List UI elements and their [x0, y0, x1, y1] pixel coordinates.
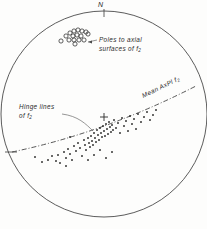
data-point-hinge [101, 136, 103, 138]
data-point-hinge [131, 123, 133, 125]
data-point-hinge [89, 146, 91, 148]
data-point-hinge [65, 157, 67, 159]
data-point-pole [82, 38, 86, 42]
data-point-hinge [125, 120, 127, 122]
data-point-hinge [119, 132, 121, 134]
data-point-hinge [100, 132, 102, 134]
data-point-hinge [103, 130, 105, 132]
data-point-hinge [99, 149, 101, 151]
data-point-hinge [55, 160, 57, 162]
data-point-hinge [91, 140, 93, 142]
data-point-pole [72, 38, 76, 42]
poles-point-group [59, 28, 90, 46]
data-point-hinge [84, 144, 86, 146]
data-point-hinge [92, 144, 94, 146]
poles-annotation-sub: 2 [138, 48, 141, 53]
data-point-hinge [146, 111, 148, 113]
data-point-hinge [96, 129, 98, 131]
data-point-hinge [69, 153, 71, 155]
center-cross-mark [100, 113, 108, 121]
hinge-annotation-line2: of f [19, 112, 29, 119]
data-point-hinge [63, 151, 65, 153]
data-point-hinge [115, 127, 117, 129]
data-point-pole [64, 34, 68, 38]
north-label: N [98, 1, 103, 10]
data-point-hinge [88, 142, 90, 144]
data-point-hinge [110, 131, 112, 133]
data-point-pole [73, 42, 77, 46]
data-point-hinge [112, 129, 114, 131]
hinge-leader-line [62, 114, 93, 131]
data-point-hinge [137, 113, 139, 115]
data-point-hinge [87, 137, 89, 139]
data-point-hinge [93, 132, 95, 134]
poles-annotation-line2: surfaces of f [99, 45, 138, 52]
data-point-hinge [99, 127, 101, 129]
hinge-annotation-sub: 2 [29, 115, 32, 120]
data-point-hinge [47, 159, 49, 161]
data-point-hinge [83, 139, 85, 141]
data-point-hinge [93, 154, 95, 156]
stereonet-figure: N Poles to axial surfaces of f2 Hinge li… [0, 0, 207, 229]
data-point-hinge [135, 128, 137, 130]
data-point-hinge [81, 155, 83, 157]
data-point-hinge [106, 128, 108, 130]
data-point-hinge [57, 154, 59, 156]
data-point-pole [77, 38, 81, 42]
data-point-hinge [107, 133, 109, 135]
data-point-hinge [140, 121, 142, 123]
data-point-hinge [94, 137, 96, 139]
data-point-hinge [149, 119, 151, 121]
data-point-pole [59, 39, 63, 43]
hinge-annotation: Hinge lines of f2 [19, 103, 54, 122]
data-point-hinge [98, 139, 100, 141]
data-point-hinge [95, 141, 97, 143]
data-point-hinge [155, 109, 157, 111]
data-point-hinge [111, 124, 113, 126]
data-point-pole [71, 34, 75, 38]
data-point-hinge [104, 135, 106, 137]
data-point-pole [75, 33, 79, 37]
data-point-hinge [143, 116, 145, 118]
data-point-pole [80, 29, 84, 33]
data-point-hinge [90, 135, 92, 137]
data-point-hinge [75, 150, 77, 152]
data-point-hinge [79, 147, 81, 149]
data-point-hinge [102, 125, 104, 127]
data-point-hinge [71, 159, 73, 161]
data-point-pole [76, 28, 80, 32]
data-point-hinge [69, 136, 71, 138]
data-point-hinge [67, 148, 69, 150]
data-point-hinge [105, 123, 107, 125]
data-point-pole [72, 29, 76, 33]
data-point-hinge [111, 151, 113, 153]
data-point-hinge [85, 149, 87, 151]
data-point-hinge [152, 114, 154, 116]
data-point-pole [67, 38, 71, 42]
data-point-pole [79, 34, 83, 38]
poles-annotation: Poles to axial surfaces of f2 [99, 36, 142, 55]
data-point-hinge [34, 156, 36, 158]
data-point-hinge [73, 145, 75, 147]
data-point-hinge [41, 161, 43, 163]
data-point-hinge [121, 117, 123, 119]
data-point-hinge [123, 125, 125, 127]
data-point-hinge [109, 126, 111, 128]
data-point-hinge [77, 142, 79, 144]
data-point-hinge [129, 115, 131, 117]
data-point-hinge [97, 134, 99, 136]
data-point-hinge [51, 155, 53, 157]
data-point-hinge [113, 119, 115, 121]
poles-annotation-line1: Poles to axial [99, 36, 142, 43]
data-point-hinge [127, 130, 129, 132]
data-point-hinge [108, 121, 110, 123]
data-point-hinge [133, 118, 135, 120]
data-point-hinge [87, 159, 89, 161]
data-point-hinge [105, 157, 107, 159]
data-point-hinge [117, 122, 119, 124]
data-point-hinge [65, 165, 67, 167]
hinge-annotation-line1: Hinge lines [19, 103, 54, 110]
poles-leader-arrow [88, 40, 92, 43]
data-point-hinge [59, 162, 61, 164]
